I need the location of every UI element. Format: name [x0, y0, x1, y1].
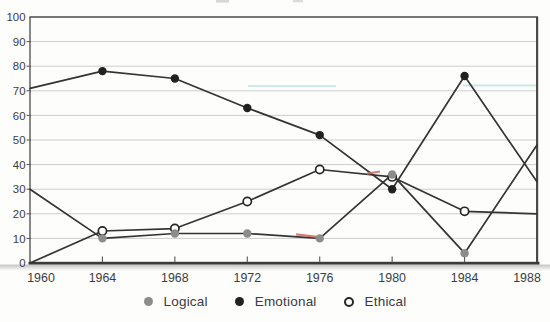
x-axis-line	[29, 262, 540, 265]
marker-ethical-1976	[316, 165, 324, 173]
legend-label-logical: Logical	[164, 294, 208, 309]
x-tick-label: 1988	[513, 271, 541, 285]
y-tick-label: 80	[13, 60, 26, 72]
legend-marker-ethical-icon	[344, 297, 354, 307]
x-tick-label: 1968	[161, 271, 189, 285]
x-tick-label: 1976	[306, 271, 334, 285]
series-line-emotional	[30, 71, 537, 189]
marker-emotional-1980	[388, 185, 396, 193]
y-tick-label: 100	[6, 11, 25, 23]
x-tick-label: 1972	[233, 271, 261, 285]
x-tick-label: 1960	[27, 271, 55, 285]
chart-figure: 1009080706050403020100196019641968197219…	[0, 0, 550, 322]
legend-marker-logical-icon	[144, 297, 153, 306]
y-tick-label: 70	[13, 85, 26, 97]
x-tick-label: 1964	[89, 271, 117, 285]
marker-emotional-1984	[460, 72, 468, 80]
y-tick-label: 30	[13, 183, 26, 195]
marker-logical-1984	[460, 249, 468, 257]
marker-emotional-1976	[316, 131, 324, 139]
legend-item-logical: Logical	[144, 294, 208, 309]
marker-logical-1972	[243, 229, 251, 237]
marker-emotional-1972	[243, 104, 251, 112]
cropped-title-remnant	[293, 0, 303, 2]
chart-legend: Logical Emotional Ethical	[0, 294, 550, 309]
legend-item-emotional: Emotional	[235, 294, 317, 309]
marker-emotional-1964	[98, 67, 106, 75]
legend-label-ethical: Ethical	[365, 294, 407, 309]
cropped-title-remnant	[216, 0, 229, 3]
y-tick-label: 90	[13, 36, 26, 48]
legend-marker-emotional-icon	[235, 297, 244, 306]
marker-logical-1964	[98, 234, 106, 242]
legend-label-emotional: Emotional	[255, 294, 317, 309]
marker-ethical-1964	[98, 227, 106, 235]
legend-item-ethical: Ethical	[344, 294, 407, 309]
marker-logical-1976	[316, 234, 324, 242]
marker-logical-1968	[171, 229, 179, 237]
y-tick-label: 10	[13, 233, 26, 245]
y-tick-label: 20	[13, 208, 26, 220]
x-tick-label: 1984	[451, 271, 479, 285]
marker-ethical-1972	[243, 197, 251, 205]
plot-border-right	[536, 17, 538, 263]
marker-emotional-1968	[171, 74, 179, 82]
x-tick-label: 1980	[378, 271, 406, 285]
y-tick-label: 40	[13, 159, 26, 171]
y-tick-label: 60	[13, 110, 26, 122]
y-tick-label: 50	[13, 134, 26, 146]
line-chart: 1009080706050403020100196019641968197219…	[0, 0, 550, 290]
marker-logical-1980	[388, 170, 396, 178]
marker-ethical-1984	[460, 207, 468, 215]
y-tick-label: 0	[19, 257, 25, 269]
